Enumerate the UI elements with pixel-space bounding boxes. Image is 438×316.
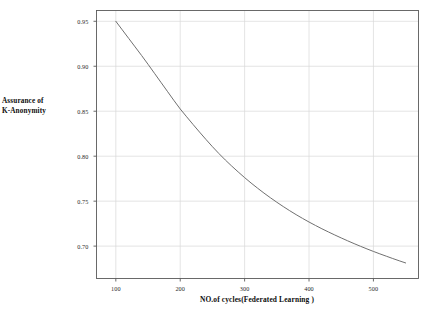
data-line (116, 21, 406, 263)
x-tick-label: 300 (232, 285, 258, 292)
chart-figure: Assurance of K-Anonymity NO.of cycles(Fe… (0, 0, 438, 316)
y-tick-label: 0.85 (67, 108, 89, 115)
y-tick-label: 0.70 (67, 243, 89, 250)
x-tick-label: 400 (296, 285, 322, 292)
data-series-group (116, 21, 406, 263)
plot-frame (97, 11, 419, 279)
y-axis-title-line-1: Assurance of (2, 97, 80, 107)
y-tick-label: 0.90 (67, 63, 89, 70)
x-tick-label: 100 (103, 285, 129, 292)
axis-frame (97, 11, 419, 279)
tick-marks-group (94, 21, 374, 281)
x-axis-title: NO.of cycles(Federated Learning ) (96, 295, 418, 304)
y-tick-label: 0.75 (67, 198, 89, 205)
gridlines-group (97, 11, 419, 279)
y-tick-label: 0.95 (67, 18, 89, 25)
y-tick-label: 0.80 (67, 153, 89, 160)
x-tick-label: 200 (167, 285, 193, 292)
x-tick-label: 500 (360, 285, 386, 292)
